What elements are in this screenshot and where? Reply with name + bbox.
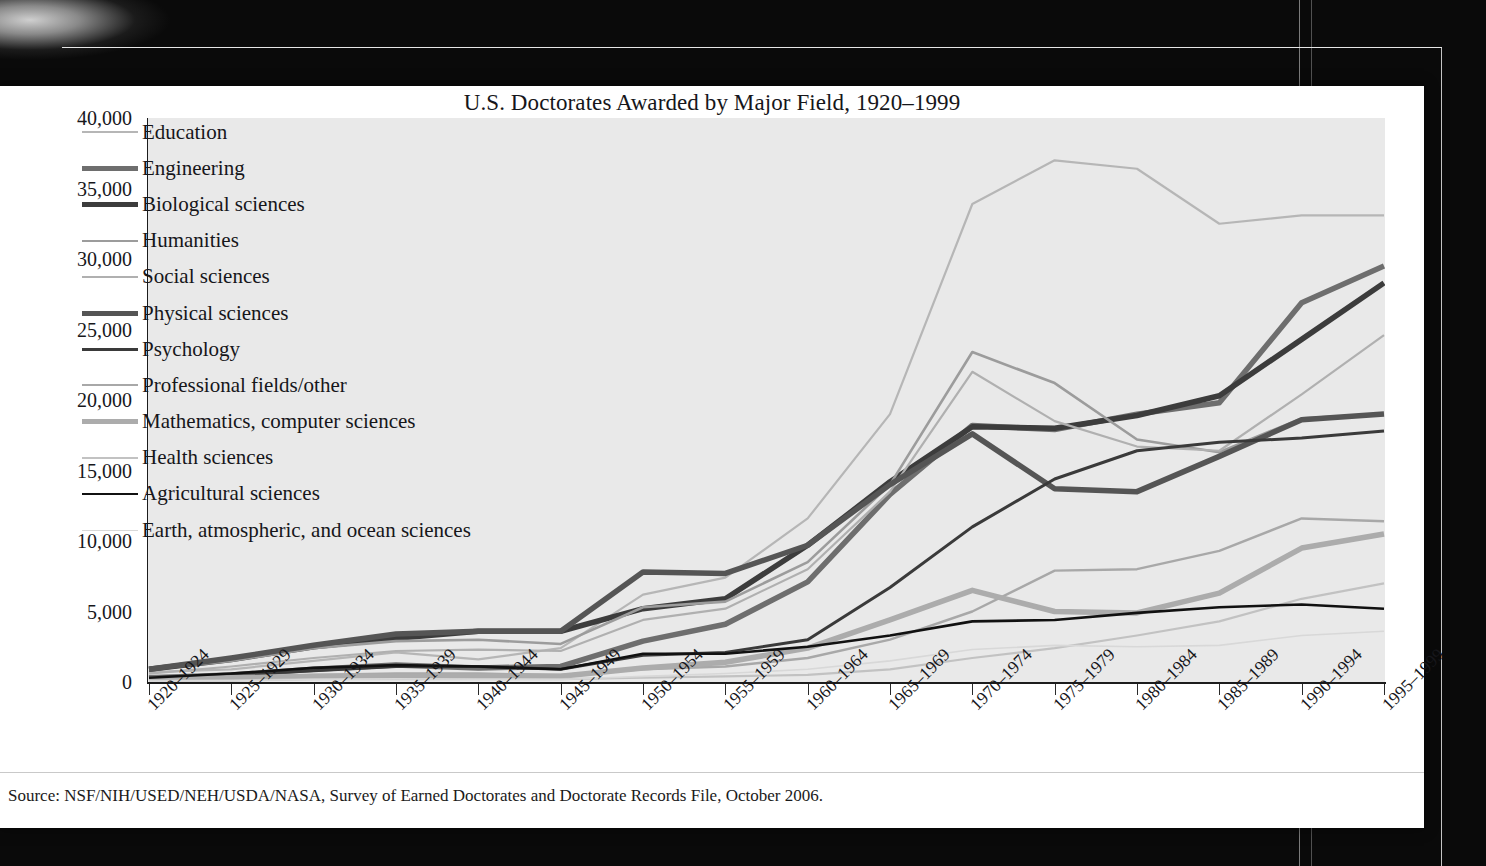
legend-item-label: Mathematics, computer sciences [142,411,415,432]
legend-swatch-icon [82,530,138,531]
x-axis-tick-mark [149,684,150,695]
x-axis-tick-mark [314,684,315,695]
x-axis-tick-mark [972,684,973,695]
legend-item-label: Education [142,122,227,143]
mount-frame-line-top [62,47,1442,48]
legend-item: Earth, atmospheric, and ocean sciences [82,512,471,548]
legend-item: Psychology [82,331,471,367]
legend-item-label: Social sciences [142,266,270,287]
x-axis-tick-mark [396,684,397,695]
x-axis-tick-mark [1302,684,1303,695]
legend-swatch-icon [82,384,138,386]
legend-item-label: Psychology [142,339,240,360]
x-axis-tick-mark [808,684,809,695]
y-axis-tick-label: 5,000 [87,600,132,623]
x-axis-tick-mark [1384,684,1385,695]
legend-item: Agricultural sciences [82,476,471,512]
legend-swatch-icon [82,348,138,351]
source-note: Source: NSF/NIH/USED/NEH/USDA/NASA, Surv… [8,786,823,806]
x-axis-tick-mark [1137,684,1138,695]
legend-item-label: Agricultural sciences [142,483,320,504]
legend-item: Humanities [82,223,471,259]
legend-item-label: Professional fields/other [142,375,347,396]
legend-item-label: Biological sciences [142,194,305,215]
legend-swatch-icon [82,493,138,495]
legend-swatch-icon [82,166,138,171]
x-axis-tick-mark [725,684,726,695]
legend-item: Physical sciences [82,295,471,331]
legend-swatch-icon [82,131,138,133]
chart-legend: EducationEngineeringBiological sciencesH… [82,114,471,548]
source-divider [0,772,1424,773]
legend-item: Mathematics, computer sciences [82,404,471,440]
legend-swatch-icon [82,276,138,278]
legend-swatch-icon [82,240,138,242]
legend-item: Biological sciences [82,186,471,222]
legend-item: Health sciences [82,440,471,476]
legend-item: Social sciences [82,259,471,295]
legend-swatch-icon [82,202,138,207]
x-axis-tick-mark [561,684,562,695]
book-page: U.S. Doctorates Awarded by Major Field, … [0,86,1424,828]
x-axis-tick-mark [890,684,891,695]
legend-item: Education [82,114,471,150]
legend-item: Professional fields/other [82,367,471,403]
legend-item-label: Humanities [142,230,239,251]
chart-title: U.S. Doctorates Awarded by Major Field, … [0,90,1424,116]
x-axis-tick-mark [643,684,644,695]
legend-item-label: Physical sciences [142,303,288,324]
x-axis-tick-mark [478,684,479,695]
legend-swatch-icon [82,311,138,316]
x-axis-tick-mark [1055,684,1056,695]
x-axis-tick-mark [1219,684,1220,695]
mount-frame-line-outer [1441,48,1442,866]
legend-item-label: Engineering [142,158,245,179]
legend-item-label: Health sciences [142,447,273,468]
legend-item: Engineering [82,150,471,186]
legend-item-label: Earth, atmospheric, and ocean sciences [142,520,471,541]
legend-swatch-icon [82,457,138,459]
x-axis-tick-mark [231,684,232,695]
legend-swatch-icon [82,419,138,424]
